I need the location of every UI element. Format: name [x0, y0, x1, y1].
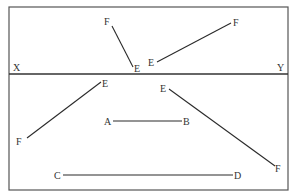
point-label: F: [104, 16, 110, 27]
segment-cd: CD: [54, 170, 241, 181]
point-label: D: [234, 170, 241, 181]
drawing-frame: [9, 7, 288, 190]
segment-top-ef-2: EF: [148, 17, 239, 68]
segment-line: [112, 26, 133, 67]
point-label: E: [134, 63, 140, 74]
point-label: C: [54, 170, 61, 181]
point-label: B: [183, 116, 190, 127]
segment-line: [169, 89, 275, 166]
y-label: Y: [277, 62, 284, 73]
point-label: A: [104, 116, 112, 127]
point-label: E: [102, 78, 108, 89]
point-label: F: [275, 163, 281, 174]
segment-bottom-ef-1: EF: [16, 78, 108, 147]
point-label: E: [160, 83, 166, 94]
line-segments: FEEFEFEFABCD: [16, 16, 281, 181]
point-label: E: [148, 57, 154, 68]
point-label: F: [233, 17, 239, 28]
segment-bottom-ef-2: EF: [160, 83, 281, 174]
segment-line: [27, 82, 101, 138]
segment-ab: AB: [104, 116, 190, 127]
projection-diagram: X Y FEEFEFEFABCD: [0, 0, 294, 195]
point-label: F: [16, 136, 22, 147]
segment-top-ef-1: FE: [104, 16, 140, 74]
segment-line: [157, 23, 231, 62]
x-label: X: [13, 62, 21, 73]
